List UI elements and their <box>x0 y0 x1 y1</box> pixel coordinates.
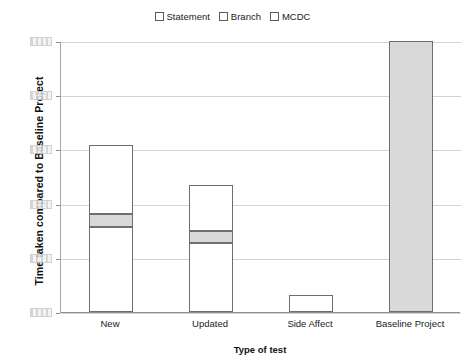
x-tick-label: Updated <box>160 318 260 329</box>
gridline <box>61 313 461 314</box>
bar-group <box>289 41 333 312</box>
legend-swatch-branch-icon <box>219 12 228 21</box>
legend-swatch-mcdc-icon <box>270 12 279 21</box>
legend-entry-statement: Statement <box>155 12 210 22</box>
x-tick-label: Baseline Project <box>360 318 460 329</box>
bar-segment-statement <box>289 295 333 312</box>
y-tick-label <box>30 254 52 263</box>
legend-entry-branch: Branch <box>219 12 261 22</box>
x-tick-label: Side Affect <box>260 318 360 329</box>
bar-segment-branch <box>189 231 233 243</box>
legend-entry-mcdc: MCDC <box>270 12 311 22</box>
legend-label-branch: Branch <box>231 12 261 22</box>
x-axis-title: Type of test <box>60 344 460 355</box>
y-tick-mark <box>56 313 60 314</box>
bar-segment-mcdc <box>89 145 133 214</box>
bar-group <box>89 41 133 312</box>
y-tick-label <box>30 200 52 209</box>
bar-group <box>389 41 433 312</box>
plot-area <box>60 42 460 313</box>
legend-label-mcdc: MCDC <box>282 12 311 22</box>
bar-segment-statement <box>89 227 133 312</box>
chart-container: Statement Branch MCDC Time taken compare… <box>0 0 465 364</box>
y-tick-label <box>30 91 52 100</box>
bar-segment-baseline <box>389 41 433 312</box>
bar-segment-branch <box>89 214 133 227</box>
bar-segment-statement <box>189 243 233 312</box>
y-tick-label <box>30 145 52 154</box>
bar-segment-mcdc <box>189 185 233 230</box>
chart-legend: Statement Branch MCDC <box>0 12 465 22</box>
bar-group <box>189 41 233 312</box>
legend-swatch-statement-icon <box>155 12 164 21</box>
y-tick-label <box>30 37 52 46</box>
y-tick-label <box>30 308 52 317</box>
legend-label-statement: Statement <box>167 12 210 22</box>
x-tick-label: New <box>60 318 160 329</box>
